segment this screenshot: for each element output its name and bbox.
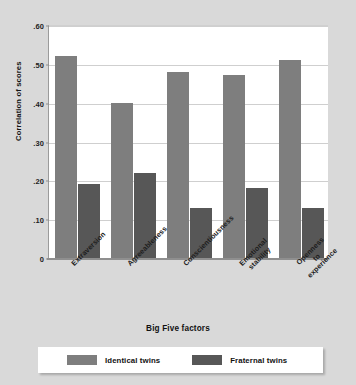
bar — [55, 56, 77, 258]
plot-area: .60.50.40.30.20.100 — [48, 25, 328, 258]
legend-label-identical-twins: Identical twins — [105, 356, 160, 365]
bar — [223, 75, 245, 258]
bar-group — [273, 26, 329, 258]
x-axis-title: Big Five factors — [0, 324, 356, 333]
bar — [167, 72, 189, 258]
bar — [111, 103, 133, 258]
legend-swatch-fraternal-twins — [192, 355, 222, 365]
legend-item-fraternal-twins: Fraternal twins — [192, 355, 287, 365]
legend-label-fraternal-twins: Fraternal twins — [230, 356, 287, 365]
bar-group — [49, 26, 105, 258]
bar-group — [105, 26, 161, 258]
bar — [279, 60, 301, 258]
chart-legend: Identical twins Fraternal twins — [38, 347, 323, 373]
y-axis-title: Correlation of scores — [14, 61, 23, 141]
bar-group — [161, 26, 217, 258]
legend-item-identical-twins: Identical twins — [67, 355, 160, 365]
figure-container: Correlation of scores .60.50.40.30.20.10… — [0, 0, 356, 385]
legend-swatch-identical-twins — [67, 355, 97, 365]
